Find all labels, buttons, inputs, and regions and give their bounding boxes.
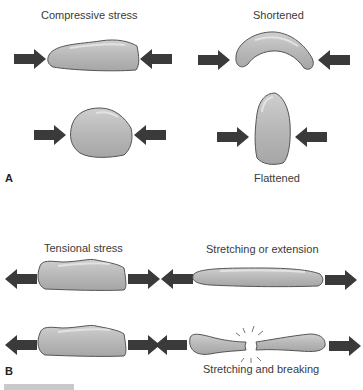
panel-a-letter: A: [5, 172, 13, 184]
stretching-extension-label: Stretching or extension: [206, 243, 319, 255]
figure-caption-cropped: [4, 384, 74, 390]
arrow-left-icon: [155, 335, 187, 355]
tensional-stress-label: Tensional stress: [44, 242, 123, 254]
arrow-left-icon: [134, 125, 166, 145]
arrow-left-icon: [318, 50, 350, 70]
compressive-stress-figure: [14, 40, 172, 71]
compressed-round-figure: [34, 108, 166, 157]
arrow-left-icon: [295, 127, 327, 147]
stretching-figure: [161, 268, 357, 290]
tensional-stress-figure: [5, 259, 160, 290]
arrow-right-icon: [198, 50, 230, 70]
tensional-stress-figure-2: [5, 325, 160, 356]
arrow-left-icon: [140, 49, 172, 69]
arrow-left-icon: [5, 335, 37, 355]
arrow-left-icon: [5, 269, 37, 289]
arrow-right-icon: [34, 125, 66, 145]
shortened-figure: [198, 32, 350, 70]
flattened-label: Flattened: [254, 172, 300, 184]
flattened-figure: [217, 93, 327, 164]
stretching-breaking-label: Stretching and breaking: [203, 363, 319, 375]
arrow-right-icon: [217, 127, 249, 147]
arrow-left-icon: [161, 269, 193, 289]
shortened-label: Shortened: [253, 9, 304, 21]
arrow-right-icon: [14, 49, 46, 69]
panel-b-letter: B: [5, 365, 13, 377]
arrow-right-icon: [329, 336, 361, 356]
breaking-figure: [155, 326, 361, 363]
arrow-right-icon: [128, 269, 160, 289]
arrow-right-icon: [325, 270, 357, 290]
compressive-stress-label: Compressive stress: [41, 9, 138, 21]
stress-diagram: [0, 0, 363, 390]
